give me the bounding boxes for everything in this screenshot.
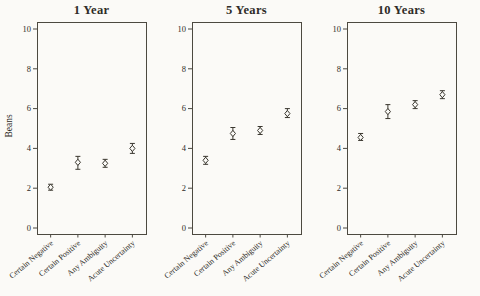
data-point-marker <box>258 127 263 133</box>
y-tick-label: 10 <box>23 24 32 34</box>
y-tick-label: 2 <box>182 183 186 193</box>
y-tick-label: 4 <box>337 143 342 153</box>
y-tick-label: 6 <box>337 103 341 113</box>
data-point-marker <box>413 102 418 108</box>
y-tick-label: 2 <box>337 183 341 193</box>
y-tick-label: 8 <box>337 64 341 74</box>
y-tick-label: 6 <box>182 103 186 113</box>
data-point-marker <box>285 110 290 116</box>
y-tick-label: 0 <box>27 223 31 233</box>
y-tick-label: 2 <box>27 183 31 193</box>
data-point-marker <box>103 160 108 166</box>
data-point-marker <box>130 145 135 151</box>
x-tick-label: Certain Negative <box>7 238 55 280</box>
y-tick-label: 4 <box>27 143 32 153</box>
x-tick-label: Acute Uncertainty <box>86 239 137 284</box>
panel-border <box>38 23 147 235</box>
panel-title-1-year: 1 Year <box>37 3 146 18</box>
data-point-marker <box>358 134 363 140</box>
data-point-marker <box>75 159 80 165</box>
x-tick-label: Certain Negative <box>317 238 365 280</box>
three-panel-chart-figure: 0246810Certain NegativeCertain PositiveA… <box>0 0 480 296</box>
x-tick-label: Certain Negative <box>162 238 210 280</box>
y-tick-label: 10 <box>178 24 187 34</box>
y-tick-label: 4 <box>182 143 187 153</box>
data-point-marker <box>440 92 445 98</box>
y-tick-label: 0 <box>182 223 186 233</box>
y-tick-label: 6 <box>27 103 31 113</box>
panel-title-5-years: 5 Years <box>192 3 301 18</box>
data-point-marker <box>203 157 208 163</box>
data-point-marker <box>385 108 390 114</box>
y-tick-label: 8 <box>27 64 31 74</box>
panel-border <box>193 23 302 235</box>
data-point-marker <box>230 130 235 136</box>
y-tick-label: 0 <box>337 223 341 233</box>
y-axis-label: Beans <box>4 96 14 156</box>
panel-border <box>348 23 457 235</box>
chart-canvas: 0246810Certain NegativeCertain PositiveA… <box>0 0 480 296</box>
y-tick-label: 8 <box>182 64 186 74</box>
data-point-marker <box>48 184 53 190</box>
x-tick-label: Acute Uncertainty <box>241 239 292 284</box>
panel-title-10-years: 10 Years <box>347 3 456 18</box>
y-tick-label: 10 <box>333 24 342 34</box>
x-tick-label: Acute Uncertainty <box>396 239 447 284</box>
